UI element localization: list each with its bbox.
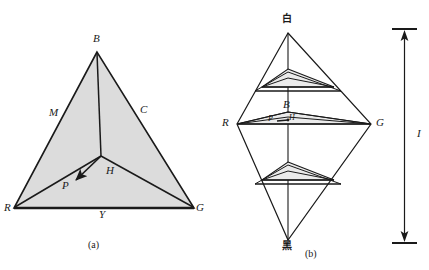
label-a-vertex-g: G: [196, 202, 204, 213]
cross-section-lower: [255, 162, 341, 184]
label-a-edge-m: M: [49, 107, 58, 118]
label-a-vertex-b: B: [93, 33, 100, 44]
panel-b-graphic: [237, 33, 371, 240]
panel-a-graphic: [14, 52, 194, 208]
vector-h-to-p-b: [277, 120, 288, 121]
triangle-rgb: [14, 52, 194, 208]
bipyramid-outline: [237, 33, 371, 240]
label-a-vertex-r: R: [4, 202, 11, 213]
label-b-apex-black: 黑: [282, 241, 292, 251]
label-intensity-axis: I: [417, 128, 421, 139]
label-b-apex-white: 白: [282, 14, 292, 24]
label-b-vertex-b: B: [283, 99, 290, 110]
label-a-edge-c: C: [140, 104, 147, 115]
label-b-point-h: H: [289, 114, 295, 122]
label-a-edge-y: Y: [99, 209, 105, 220]
caption-a: (a): [88, 240, 99, 250]
label-b-vertex-r: R: [222, 117, 229, 128]
label-a-point-h: H: [106, 165, 114, 176]
figure-root: B M C R Y G H P (a) 白 B R G P H 黑 I (b): [0, 0, 429, 270]
label-b-vertex-g: G: [376, 117, 384, 128]
cross-section-middle: [237, 112, 371, 124]
figure-canvas: [0, 0, 429, 270]
label-a-point-p: P: [62, 180, 69, 191]
intensity-axis-graphic: [392, 29, 417, 243]
label-b-point-p: P: [268, 115, 273, 123]
caption-b: (b): [305, 249, 317, 259]
cross-section-upper: [255, 69, 341, 91]
